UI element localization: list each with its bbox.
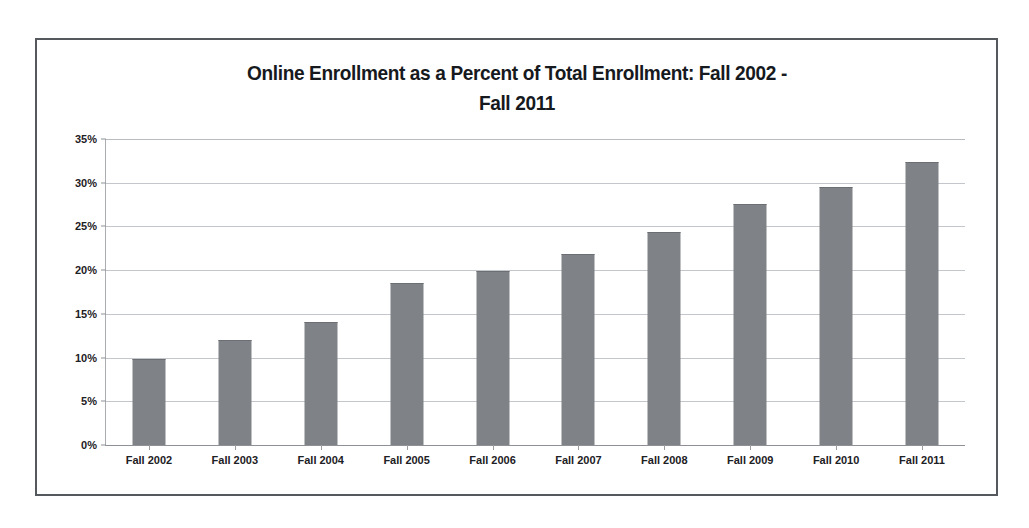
bar-group: Fall 2010 [793, 139, 879, 445]
bar-group: Fall 2007 [536, 139, 622, 445]
x-axis-tick-mark [149, 445, 150, 450]
x-axis-tick-mark [578, 445, 579, 450]
x-axis-tick-label: Fall 2010 [813, 454, 859, 466]
bars-layer: Fall 2002Fall 2003Fall 2004Fall 2005Fall… [106, 139, 965, 445]
bar-group: Fall 2009 [707, 139, 793, 445]
y-axis-tick-label: 10% [75, 352, 97, 364]
bar[interactable] [390, 283, 423, 445]
bar[interactable] [476, 271, 509, 445]
x-axis-tick-label: Fall 2007 [555, 454, 601, 466]
bar[interactable] [562, 254, 595, 445]
x-axis-tick-label: Fall 2005 [383, 454, 429, 466]
x-axis-tick-label: Fall 2004 [297, 454, 343, 466]
x-axis-tick-label: Fall 2006 [469, 454, 515, 466]
x-axis-tick-mark [321, 445, 322, 450]
bar[interactable] [734, 204, 767, 445]
x-axis-tick-label: Fall 2009 [727, 454, 773, 466]
chart-title: Online Enrollment as a Percent of Total … [136, 58, 899, 118]
y-axis-tick-label: 0% [81, 439, 97, 451]
bar-group: Fall 2003 [192, 139, 278, 445]
bar[interactable] [648, 232, 681, 445]
x-axis-tick-mark [664, 445, 665, 450]
chart-figure-frame: Online Enrollment as a Percent of Total … [35, 38, 998, 496]
bar[interactable] [304, 322, 337, 445]
bar[interactable] [820, 187, 853, 445]
chart-title-line-1: Online Enrollment as a Percent of Total … [136, 58, 899, 88]
bar[interactable] [906, 162, 939, 445]
bar-group: Fall 2002 [106, 139, 192, 445]
bar[interactable] [218, 340, 251, 445]
x-axis-tick-mark [235, 445, 236, 450]
x-axis-tick-mark [836, 445, 837, 450]
bar-group: Fall 2006 [450, 139, 536, 445]
x-axis-tick-mark [922, 445, 923, 450]
y-axis-tick-label: 15% [75, 308, 97, 320]
bar-group: Fall 2005 [364, 139, 450, 445]
plot-area: 0%5%10%15%20%25%30%35% Fall 2002Fall 200… [105, 139, 965, 446]
x-axis-tick-label: Fall 2011 [899, 454, 945, 466]
bar-group: Fall 2011 [879, 139, 965, 445]
y-axis-tick-label: 5% [81, 395, 97, 407]
y-axis-tick-label: 20% [75, 264, 97, 276]
chart-title-line-2: Fall 2011 [136, 88, 899, 118]
x-axis-tick-label: Fall 2003 [212, 454, 258, 466]
bar-group: Fall 2004 [278, 139, 364, 445]
x-axis-tick-mark [407, 445, 408, 450]
bar[interactable] [132, 359, 165, 445]
y-axis-tick-label: 35% [75, 133, 97, 145]
y-axis-tick-label: 30% [75, 177, 97, 189]
x-axis-tick-label: Fall 2008 [641, 454, 687, 466]
x-axis-tick-mark [750, 445, 751, 450]
y-axis-tick-label: 25% [75, 220, 97, 232]
x-axis-tick-mark [493, 445, 494, 450]
x-axis-tick-label: Fall 2002 [126, 454, 172, 466]
bar-group: Fall 2008 [621, 139, 707, 445]
